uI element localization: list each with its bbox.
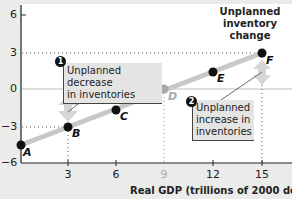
x-axis-title: Real GDP (trillions of 2000 dollars): [130, 185, 292, 196]
xtick-label-12: 12: [203, 168, 223, 181]
callout-increase-line1: Unplanned: [196, 102, 251, 114]
ytick-label-6: 6: [1, 8, 17, 21]
callout-decrease-line1: Unplanned decrease: [67, 65, 159, 89]
ytick-label-3: 3: [1, 46, 17, 59]
label-e: E: [217, 72, 225, 85]
callout-2-badge: 2: [186, 96, 197, 107]
xtick-label-15: 15: [252, 168, 272, 181]
ytick-label-m6: −6: [1, 156, 17, 169]
xtick-label-9: 9: [154, 168, 174, 181]
y-title-line2: inventory: [210, 18, 290, 30]
ytick-label-m3: −3: [1, 120, 17, 133]
label-b: B: [72, 127, 80, 140]
y-axis-title: Unplanned inventory change: [210, 6, 290, 42]
callout-increase: Unplanned increase in inventories: [192, 100, 254, 141]
label-f: F: [266, 54, 274, 67]
xtick-label-3: 3: [58, 168, 78, 181]
callout-1-badge: 1: [55, 56, 66, 67]
label-a: A: [23, 146, 32, 159]
xtick-label-6: 6: [106, 168, 126, 181]
callout-decrease-line2: in inventories: [67, 89, 159, 101]
ytick-label-0: 0: [1, 82, 17, 95]
callout-increase-line2: increase in: [196, 114, 251, 126]
label-d: D: [168, 90, 177, 103]
y-title-line1: Unplanned: [210, 6, 290, 18]
y-title-line3: change: [210, 30, 290, 42]
callout-increase-line3: inventories: [196, 126, 251, 138]
callout-decrease: Unplanned decrease in inventories: [63, 63, 162, 104]
label-c: C: [120, 110, 128, 123]
